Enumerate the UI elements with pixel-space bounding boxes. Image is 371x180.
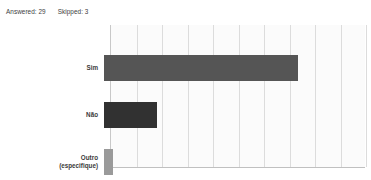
bar[interactable] [104,149,113,175]
skipped-count: Skipped: 3 [58,8,89,15]
horizontal-bar-chart: SimNãoOutro (especifique) 0%10%20%30%40%… [0,22,371,180]
bar[interactable] [104,102,157,128]
bar-row: Sim [0,44,371,91]
bar-row: Outro (especifique) [0,138,371,180]
bar-row: Não [0,91,371,138]
answered-count: Answered: 29 [6,8,46,15]
survey-result-panel: Answered: 29 Skipped: 3 SimNãoOutro (esp… [0,0,371,180]
bar-track [104,138,359,180]
category-label: Outro (especifique) [0,154,104,170]
response-summary: Answered: 29 Skipped: 3 [6,8,88,15]
category-label: Não [0,111,104,119]
bar-rows: SimNãoOutro (especifique) [0,44,371,180]
category-label: Sim [0,64,104,72]
bar-track [104,91,359,138]
bar-track [104,44,359,91]
bar[interactable] [104,55,298,81]
